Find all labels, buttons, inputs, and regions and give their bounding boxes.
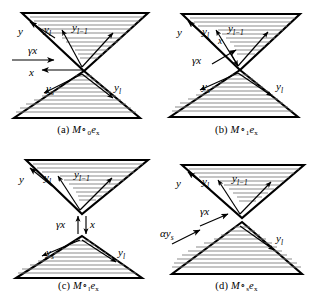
arrow-yl-bottom-c bbox=[82, 240, 116, 262]
panel-a-drawing: y yl yl−1 γx x ys yl bbox=[0, 0, 157, 128]
arrow-yl-bottom-a bbox=[82, 74, 113, 98]
caption-c-prefix: (c) bbox=[58, 280, 70, 291]
vector-arrows-c bbox=[30, 168, 116, 262]
panel-d: y yl yl−1 γx αys yl (d) M∘sex bbox=[158, 154, 315, 307]
label-yl-top-c: yl bbox=[43, 171, 51, 186]
panel-d-drawing: y yl yl−1 γx αys yl bbox=[158, 154, 315, 282]
arrow-yl-bottom-d bbox=[240, 226, 274, 250]
panel-b: y yl yl−1 x γx ys yl (b) M∘1ex bbox=[158, 0, 315, 153]
caption-a-main: M bbox=[72, 124, 81, 135]
caption-a-prefix: (a) bbox=[57, 124, 69, 135]
label-yl-bottom-a: yl bbox=[113, 81, 121, 96]
panel-c-drawing: y yl yl−1 γx x ys yl bbox=[0, 154, 157, 282]
label-ylm1-c: yl−1 bbox=[73, 168, 90, 183]
upper-triangle-c bbox=[26, 160, 148, 214]
label-x-b: x bbox=[217, 36, 223, 46]
lower-triangle-d bbox=[172, 222, 302, 274]
caption-b-e-sub: x bbox=[254, 129, 258, 137]
panel-a: y yl yl−1 γx x ys yl (a) M∘0ex bbox=[0, 0, 157, 153]
label-y-b: y bbox=[176, 26, 182, 38]
lower-triangle-a bbox=[14, 71, 140, 118]
caption-a-e-sub: x bbox=[96, 129, 100, 137]
label-alphays-d: αys bbox=[160, 227, 174, 242]
label-gammax-c: γx bbox=[56, 218, 65, 230]
label-gammax-b: γx bbox=[192, 54, 201, 66]
panel-d-labels: y yl yl−1 γx αys yl bbox=[160, 172, 283, 247]
panel-c-labels: y yl yl−1 γx x ys yl bbox=[18, 168, 125, 261]
upper-triangle-a bbox=[22, 13, 148, 71]
caption-c-e-sub: x bbox=[95, 285, 99, 293]
label-x-c: x bbox=[89, 218, 95, 230]
label-yl-bottom-c: yl bbox=[117, 246, 125, 261]
panel-a-labels: y yl yl−1 γx x ys yl bbox=[17, 21, 121, 97]
caption-d-main: M bbox=[231, 280, 240, 291]
caption-d-prefix: (d) bbox=[215, 280, 228, 291]
hatch-lines-lower-d bbox=[172, 227, 301, 267]
label-y-c: y bbox=[18, 173, 24, 185]
caption-a: (a) M∘0ex bbox=[0, 124, 157, 137]
label-y-d: y bbox=[175, 177, 181, 189]
arrow-alphays-d bbox=[172, 230, 200, 244]
vector-arrows-d bbox=[172, 172, 274, 250]
label-ylm1-a: yl−1 bbox=[71, 21, 88, 36]
arrow-y-a bbox=[30, 22, 55, 38]
arrow-yl-bottom-b bbox=[238, 73, 272, 96]
hatch-lines-lower-b bbox=[172, 75, 293, 111]
label-yl-bottom-d: yl bbox=[275, 232, 283, 247]
caption-b-main: M bbox=[231, 124, 240, 135]
caption-c-main: M bbox=[73, 280, 82, 291]
label-ylm1-b: yl−1 bbox=[227, 22, 244, 37]
panel-b-drawing: y yl yl−1 x γx ys yl bbox=[158, 0, 315, 128]
caption-d-e-sub: x bbox=[254, 285, 258, 293]
label-gammax-d: γx bbox=[200, 205, 209, 217]
panel-c: y yl yl−1 γx x ys yl (c) M∘lex bbox=[0, 154, 157, 307]
figure-panel-grid: y yl yl−1 γx x ys yl (a) M∘0ex bbox=[0, 0, 315, 307]
caption-c: (c) M∘lex bbox=[0, 280, 157, 293]
caption-b: (b) M∘1ex bbox=[158, 124, 315, 137]
label-yl-top-b: yl bbox=[201, 25, 209, 40]
label-x-a: x bbox=[28, 66, 34, 78]
caption-b-prefix: (b) bbox=[215, 124, 228, 135]
label-gammax-a: γx bbox=[28, 44, 37, 56]
caption-d: (d) M∘sex bbox=[158, 280, 315, 293]
label-yl-bottom-b: yl bbox=[275, 80, 283, 95]
lower-triangle-b bbox=[170, 70, 298, 117]
label-y-a: y bbox=[17, 25, 23, 37]
